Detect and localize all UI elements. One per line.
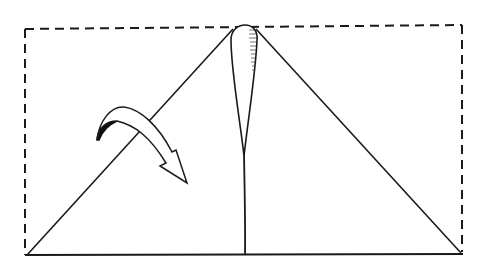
center-crease: [244, 152, 245, 255]
base-edge: [25, 254, 463, 255]
origami-diagram: origami-fold-step: [0, 0, 483, 268]
center-petal-flap: [231, 25, 257, 156]
fold-arrow-icon: [97, 107, 187, 183]
